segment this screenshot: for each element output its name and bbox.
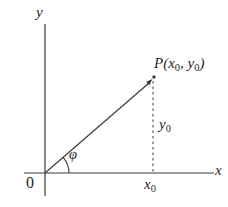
coordinate-plane-diagram: y x 0 φ P(x0, y0) y0 x0 xyxy=(0,0,228,207)
point-p-dot xyxy=(152,75,155,78)
y0-label-sub: 0 xyxy=(166,123,171,134)
x0-label-base: x xyxy=(144,176,151,192)
x0-label-sub: 0 xyxy=(151,183,156,194)
point-p-label: P(x0, y0) xyxy=(154,55,205,74)
y0-label-base: y xyxy=(159,116,166,132)
point-p-label-mid: , y xyxy=(180,55,194,71)
x0-label: x0 xyxy=(144,176,156,195)
ray-line xyxy=(45,83,149,173)
point-p-label-suffix: ) xyxy=(200,55,205,71)
origin-label: 0 xyxy=(26,174,34,192)
y-axis-label: y xyxy=(36,4,43,21)
diagram-canvas xyxy=(0,0,228,207)
y0-label: y0 xyxy=(159,116,171,135)
point-p-label-prefix: P(x xyxy=(154,55,175,71)
angle-phi-label: φ xyxy=(69,146,77,163)
x-axis-label: x xyxy=(215,162,222,179)
